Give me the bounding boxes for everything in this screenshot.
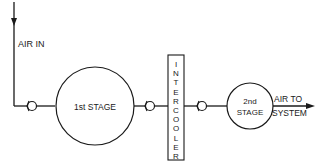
check-valve-icon bbox=[197, 101, 207, 111]
air-in-pipe bbox=[14, 2, 27, 106]
intercooler-letter: O bbox=[173, 115, 179, 124]
stage2-compressor bbox=[227, 83, 273, 129]
check-valve-icon bbox=[145, 101, 155, 111]
down-arrow-icon bbox=[11, 18, 17, 26]
right-arrow-icon bbox=[306, 103, 315, 109]
check-valve-icon bbox=[27, 101, 37, 111]
intercooler-letter: R bbox=[173, 97, 179, 106]
two-stage-compressor-diagram: AIR IN 1st STAGE INTERCOOLER 2nd STAGE A… bbox=[0, 0, 323, 165]
air-in-label: AIR IN bbox=[18, 39, 45, 49]
intercooler-letter: N bbox=[173, 69, 179, 78]
intercooler-letter: E bbox=[173, 88, 178, 97]
intercooler-letter: E bbox=[173, 143, 178, 152]
intercooler-label: INTERCOOLER bbox=[173, 60, 179, 161]
intercooler-letter: O bbox=[173, 124, 179, 133]
stage1-label: 1st STAGE bbox=[74, 102, 116, 112]
intercooler-letter: I bbox=[175, 60, 177, 69]
air-to-label: AIR TO bbox=[274, 94, 302, 104]
intercooler-letter: L bbox=[174, 134, 179, 143]
intercooler-letter: T bbox=[174, 78, 179, 87]
intercooler-letter: C bbox=[173, 106, 179, 115]
intercooler-letter: R bbox=[173, 152, 179, 161]
stage2-label-line2: STAGE bbox=[237, 108, 264, 117]
system-label: SYSTEM bbox=[272, 108, 307, 118]
stage2-label-line1: 2nd bbox=[243, 97, 256, 106]
